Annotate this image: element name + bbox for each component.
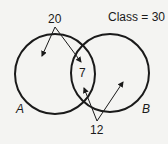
intersection-value-label: 7 <box>79 67 86 79</box>
class-total-label: Class = 30 <box>108 11 165 23</box>
bottom-value-label: 12 <box>90 124 103 136</box>
top-value-label: 20 <box>48 13 61 25</box>
set-b-label: B <box>142 103 150 115</box>
set-a-label: A <box>16 103 24 115</box>
arrows-from-bottom-value <box>84 82 123 121</box>
